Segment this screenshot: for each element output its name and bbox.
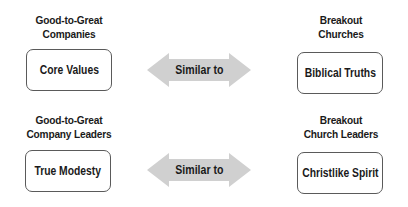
- heading-line: Good-to-Great: [3, 13, 135, 27]
- heading-line: Church Leaders: [275, 127, 407, 141]
- box-label: Biblical Truths: [304, 66, 375, 80]
- box-label: Christlike Spirit: [302, 166, 378, 180]
- heading-line: Good-to-Great: [3, 113, 135, 127]
- relation-label: Similar to: [175, 163, 223, 177]
- heading-line: Companies: [3, 27, 135, 41]
- heading-line: Company Leaders: [3, 127, 135, 141]
- similar-to-arrow-1: Similar to: [147, 53, 251, 87]
- heading-line: Breakout: [275, 113, 407, 127]
- similar-to-arrow-2: Similar to: [147, 153, 251, 187]
- christlike-spirit-box: Christlike Spirit: [297, 152, 383, 194]
- left-heading-company-leaders: Good-to-Great Company Leaders: [3, 113, 135, 141]
- right-heading-churches: Breakout Churches: [275, 13, 407, 41]
- heading-line: Churches: [275, 27, 407, 41]
- right-heading-church-leaders: Breakout Church Leaders: [275, 113, 407, 141]
- heading-line: Breakout: [275, 13, 407, 27]
- relation-label: Similar to: [175, 63, 223, 77]
- true-modesty-box: True Modesty: [25, 150, 111, 192]
- biblical-truths-box: Biblical Truths: [297, 52, 383, 94]
- core-values-box: Core Values: [26, 49, 112, 91]
- left-heading-companies: Good-to-Great Companies: [3, 13, 135, 41]
- box-label: True Modesty: [35, 164, 102, 178]
- box-label: Core Values: [39, 63, 98, 77]
